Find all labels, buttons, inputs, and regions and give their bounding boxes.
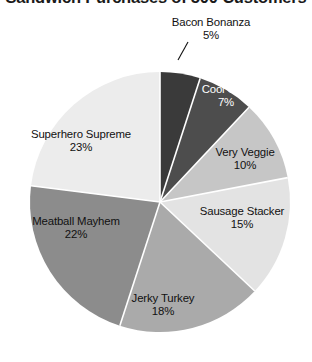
pie-label-meatball-mayhem-name: Meatball Mayhem bbox=[32, 215, 120, 228]
pie-label-jerky-turkey-name: Jerky Turkey bbox=[132, 292, 195, 305]
pie-label-sausage-stacker-value: 15% bbox=[200, 218, 285, 231]
pie-label-superhero-supreme: Superhero Supreme 23% bbox=[31, 128, 131, 155]
pie-label-very-veggie-name: Very Veggie bbox=[215, 146, 274, 159]
pie-label-meatball-mayhem: Meatball Mayhem 22% bbox=[32, 215, 120, 242]
pie-label-jerky-turkey: Jerky Turkey 18% bbox=[132, 292, 195, 319]
pie-label-cool-club-value: 7% bbox=[202, 96, 251, 109]
pie-chart: Bacon Bonanza 5% Cool Club 7% Very Veggi… bbox=[0, 0, 312, 362]
pie-label-superhero-supreme-name: Superhero Supreme bbox=[31, 128, 131, 141]
pie-label-very-veggie-value: 10% bbox=[215, 159, 274, 172]
pie-label-bacon-bonanza-name: Bacon Bonanza bbox=[172, 16, 250, 29]
pie-label-cool-club: Cool Club 7% bbox=[202, 83, 251, 110]
pie-label-meatball-mayhem-value: 22% bbox=[32, 228, 120, 241]
pie-label-jerky-turkey-value: 18% bbox=[132, 305, 195, 318]
pie-label-very-veggie: Very Veggie 10% bbox=[215, 146, 274, 173]
pie-label-superhero-supreme-value: 23% bbox=[31, 141, 131, 154]
pie-label-bacon-bonanza: Bacon Bonanza 5% bbox=[172, 16, 250, 43]
pie-label-sausage-stacker-name: Sausage Stacker bbox=[200, 205, 285, 218]
pie-label-bacon-bonanza-value: 5% bbox=[172, 29, 250, 42]
leader-line-bacon-bonanza bbox=[176, 41, 190, 61]
pie-label-cool-club-name: Cool Club bbox=[202, 83, 251, 96]
pie-label-sausage-stacker: Sausage Stacker 15% bbox=[200, 205, 285, 232]
